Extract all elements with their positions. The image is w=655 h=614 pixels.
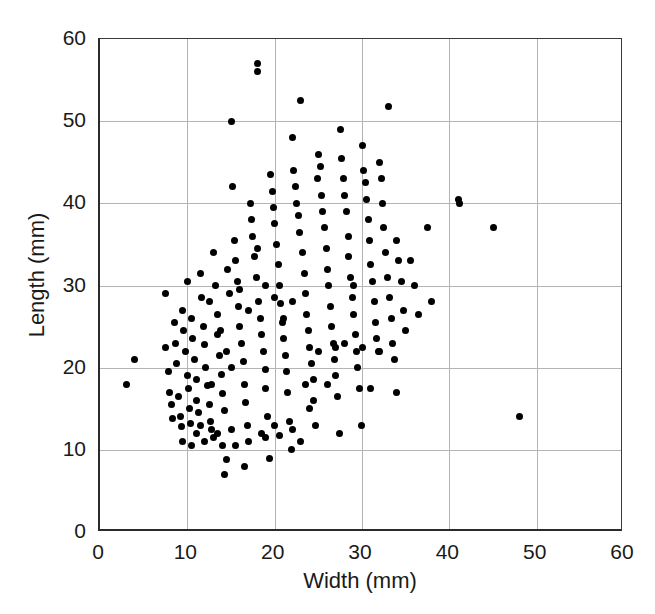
data-point xyxy=(411,282,418,289)
data-point xyxy=(359,344,366,351)
data-point xyxy=(191,356,198,363)
data-point xyxy=(363,196,370,203)
data-point xyxy=(193,397,200,404)
data-point xyxy=(321,224,328,231)
data-point xyxy=(186,405,193,412)
data-point xyxy=(312,422,319,429)
data-point xyxy=(280,315,287,322)
data-point xyxy=(376,159,383,166)
data-point xyxy=(379,200,386,207)
data-point xyxy=(341,340,348,347)
data-point xyxy=(277,300,284,307)
data-point xyxy=(221,407,228,414)
data-point xyxy=(388,315,395,322)
data-point xyxy=(232,257,239,264)
data-point xyxy=(197,422,204,429)
y-axis-label: Length (mm) xyxy=(24,165,50,385)
data-point xyxy=(223,348,230,355)
data-point xyxy=(162,290,169,297)
data-point xyxy=(372,319,379,326)
data-point xyxy=(184,278,191,285)
data-point xyxy=(232,442,239,449)
x-tick-label: 30 xyxy=(330,541,390,562)
data-point xyxy=(314,175,321,182)
data-point xyxy=(264,413,271,420)
data-point xyxy=(341,192,348,199)
data-point xyxy=(402,327,409,334)
data-point xyxy=(254,245,261,252)
data-point xyxy=(295,212,302,219)
data-point xyxy=(200,323,207,330)
data-point xyxy=(340,175,347,182)
data-point xyxy=(177,413,184,420)
data-point xyxy=(299,249,306,256)
data-point xyxy=(238,340,245,347)
data-point xyxy=(258,331,265,338)
data-point xyxy=(235,303,242,310)
data-point xyxy=(391,356,398,363)
gridline-vertical xyxy=(537,39,538,529)
data-point xyxy=(234,278,241,285)
data-point xyxy=(195,409,202,416)
data-point xyxy=(169,415,176,422)
y-tick-label: 50 xyxy=(26,109,86,130)
data-point xyxy=(214,311,221,318)
data-point xyxy=(337,126,344,133)
data-point xyxy=(386,294,393,301)
data-point xyxy=(206,401,213,408)
data-point xyxy=(165,368,172,375)
data-point xyxy=(216,352,223,359)
gridline-horizontal xyxy=(100,450,621,451)
data-point xyxy=(302,290,309,297)
y-tick-label: 0 xyxy=(26,520,86,541)
data-point xyxy=(275,261,282,268)
data-point xyxy=(490,224,497,231)
scatter-plot-figure: 0102030405060 0102030405060 Width (mm) L… xyxy=(0,0,655,614)
data-point xyxy=(236,323,243,330)
y-tick-label: 10 xyxy=(26,438,86,459)
data-point xyxy=(202,364,209,371)
data-point xyxy=(389,340,396,347)
data-point xyxy=(384,274,391,281)
data-point xyxy=(398,278,405,285)
data-point xyxy=(290,167,297,174)
x-tick-label: 20 xyxy=(243,541,303,562)
data-point xyxy=(407,257,414,264)
data-point xyxy=(336,430,343,437)
data-point xyxy=(385,103,392,110)
data-point xyxy=(206,298,213,305)
x-tick-label: 10 xyxy=(155,541,215,562)
data-point xyxy=(179,438,186,445)
data-point xyxy=(317,163,324,170)
x-tick-label: 60 xyxy=(592,541,652,562)
data-point xyxy=(393,389,400,396)
data-point xyxy=(212,282,219,289)
data-point xyxy=(248,216,255,223)
data-point xyxy=(428,298,435,305)
data-point xyxy=(224,266,231,273)
data-point xyxy=(262,434,269,441)
data-point xyxy=(366,237,373,244)
gridline-vertical xyxy=(449,39,450,529)
data-point xyxy=(240,358,247,365)
data-point xyxy=(303,311,310,318)
x-tick-label: 40 xyxy=(417,541,477,562)
data-point xyxy=(273,241,280,248)
data-point xyxy=(236,286,243,293)
data-point xyxy=(193,376,200,383)
data-point xyxy=(289,426,296,433)
data-point xyxy=(373,335,380,342)
data-point xyxy=(415,311,422,318)
plot-area xyxy=(98,38,622,531)
gridline-horizontal xyxy=(100,286,621,287)
data-point xyxy=(327,303,334,310)
data-point xyxy=(271,422,278,429)
data-point xyxy=(289,298,296,305)
data-point xyxy=(424,224,431,231)
data-point xyxy=(254,68,261,75)
data-point xyxy=(255,298,262,305)
data-point xyxy=(283,368,290,375)
data-point xyxy=(350,282,357,289)
data-point xyxy=(267,171,274,178)
data-point xyxy=(297,97,304,104)
